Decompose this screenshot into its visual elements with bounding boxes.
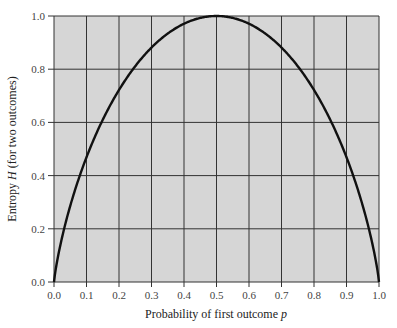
x-tick-label: 0.5 xyxy=(210,289,224,301)
y-tick-label: 0.6 xyxy=(31,116,45,128)
x-tick-label: 0.6 xyxy=(242,289,256,301)
x-tick-label: 0.2 xyxy=(112,289,126,301)
x-tick-label: 0.3 xyxy=(145,289,159,301)
y-tick-label: 0.8 xyxy=(31,63,45,75)
y-tick-label: 0.0 xyxy=(31,276,45,288)
x-tick-label: 0.9 xyxy=(340,289,354,301)
y-tick-label: 1.0 xyxy=(31,10,45,22)
y-tick-label: 0.2 xyxy=(31,223,45,235)
entropy-chart: 0.00.20.40.60.81.0 0.00.10.20.30.40.50.6… xyxy=(0,0,397,328)
x-tick-label: 0.8 xyxy=(307,289,321,301)
y-tick-label: 0.4 xyxy=(31,170,45,182)
x-tick-label: 0.0 xyxy=(47,289,61,301)
x-tick-label: 0.7 xyxy=(275,289,289,301)
y-axis-ticks: 0.00.20.40.60.81.0 xyxy=(31,10,45,288)
x-tick-label: 0.4 xyxy=(177,289,191,301)
x-tick-label: 1.0 xyxy=(372,289,386,301)
x-axis-ticks: 0.00.10.20.30.40.50.60.70.80.91.0 xyxy=(47,289,386,301)
x-tick-label: 0.1 xyxy=(80,289,94,301)
y-axis-label: Entropy H (for two outcomes) xyxy=(5,76,19,221)
x-axis-label: Probability of first outcome p xyxy=(145,307,287,321)
